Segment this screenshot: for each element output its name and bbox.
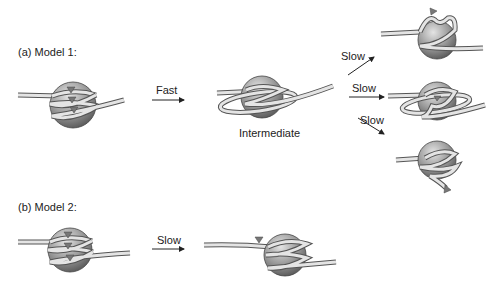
product-middle-complex [388, 82, 485, 120]
product-top-complex [381, 8, 483, 59]
marker-triangle-icon [255, 237, 263, 243]
model2-start-complex [18, 228, 130, 272]
marker-triangle-icon [430, 8, 437, 15]
diagram-canvas [0, 0, 500, 289]
slow-down-arrow [358, 118, 384, 134]
model1-start-complex [18, 82, 124, 128]
model2-end-complex [204, 234, 336, 276]
intermediate-complex [217, 76, 333, 118]
product-bottom-complex [396, 141, 457, 193]
slow-up-arrow [348, 57, 374, 75]
